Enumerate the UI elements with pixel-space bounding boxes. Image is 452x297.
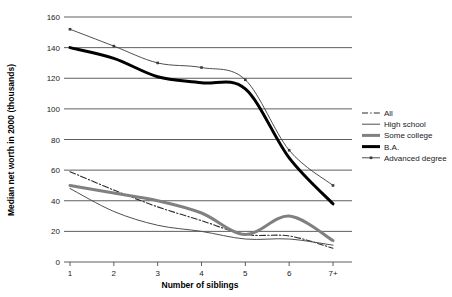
- x-tick-label: 2: [112, 269, 117, 278]
- data-point-marker: [332, 184, 335, 187]
- series-line: [70, 185, 333, 240]
- legend-item-b-a[interactable]: B.A.: [362, 143, 399, 152]
- series-some-college: [70, 185, 333, 240]
- x-tick-label: 7+: [328, 269, 337, 278]
- x-tick-label: 5: [243, 269, 248, 278]
- legend-item-some-college[interactable]: Some college: [362, 131, 433, 140]
- line-chart: 020406080100120140160 1234567+ AllHigh s…: [0, 0, 452, 297]
- series-line: [70, 48, 333, 204]
- data-point-marker: [69, 28, 72, 31]
- y-tick-label: 120: [47, 74, 61, 83]
- legend-label: High school: [384, 120, 426, 129]
- y-tick-label: 60: [51, 166, 60, 175]
- y-tick-label: 100: [47, 105, 61, 114]
- x-tick-labels-group: 1234567+: [68, 269, 338, 278]
- y-tick-label: 140: [47, 44, 61, 53]
- legend: AllHigh schoolSome collegeB.A.Advanced d…: [362, 109, 447, 163]
- y-tick-label: 80: [51, 136, 60, 145]
- x-axis-title: Number of siblings: [162, 280, 239, 290]
- legend-marker: [370, 157, 373, 160]
- x-tick-label: 1: [68, 269, 73, 278]
- data-point-marker: [288, 149, 291, 152]
- legend-label: Some college: [384, 131, 433, 140]
- legend-item-high-school[interactable]: High school: [362, 120, 426, 129]
- data-series-group: [69, 28, 335, 248]
- x-tick-label: 6: [287, 269, 292, 278]
- data-point-marker: [113, 45, 116, 48]
- y-tick-label: 40: [51, 197, 60, 206]
- legend-item-all[interactable]: All: [362, 109, 393, 118]
- x-tick-marks-group: [70, 262, 333, 266]
- data-point-marker: [244, 78, 247, 81]
- x-tick-label: 4: [199, 269, 204, 278]
- y-tick-label: 0: [56, 258, 61, 267]
- legend-label: B.A.: [384, 143, 399, 152]
- chart-container: 020406080100120140160 1234567+ AllHigh s…: [0, 0, 452, 297]
- legend-label: Advanced degree: [384, 154, 447, 163]
- y-tick-labels-group: 020406080100120140160: [47, 13, 61, 267]
- y-tick-label: 160: [47, 13, 61, 22]
- x-tick-label: 3: [155, 269, 160, 278]
- legend-item-advanced-degree[interactable]: Advanced degree: [362, 154, 447, 163]
- legend-label: All: [384, 109, 393, 118]
- series-b-a: [70, 48, 333, 204]
- y-tick-marks-group: [64, 17, 70, 262]
- data-point-marker: [200, 66, 203, 69]
- y-axis-title: Median net worth in 2000 (thousands): [6, 64, 16, 216]
- data-point-marker: [156, 62, 159, 65]
- y-tick-label: 20: [51, 227, 60, 236]
